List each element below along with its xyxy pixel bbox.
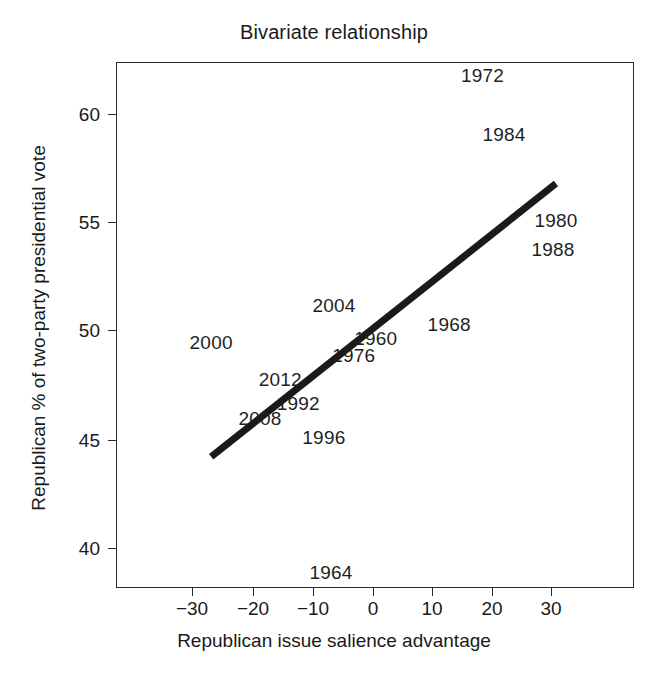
trend-line-layer — [117, 63, 634, 588]
y-tick-label: 40 — [79, 539, 100, 558]
x-tick-label: −30 — [176, 599, 208, 618]
x-tick-mark — [492, 588, 493, 596]
y-tick-mark — [108, 440, 116, 441]
x-tick-label: −20 — [237, 599, 269, 618]
x-tick-mark — [313, 588, 314, 596]
data-point-label-2000: 2000 — [190, 332, 233, 351]
data-point-label-1968: 1968 — [428, 315, 471, 334]
x-tick-label: 10 — [421, 599, 442, 618]
data-point-label-1972: 1972 — [461, 66, 504, 85]
data-point-label-1992: 1992 — [277, 393, 320, 412]
y-tick-label: 50 — [79, 321, 100, 340]
y-axis-label: Republican % of two-party presidential v… — [28, 65, 58, 591]
y-tick-label: 55 — [79, 213, 100, 232]
data-point-label-1980: 1980 — [534, 211, 577, 230]
data-point-label-2008: 2008 — [239, 408, 282, 427]
x-tick-label: 30 — [540, 599, 561, 618]
chart-figure: Bivariate relationship 19721984198019881… — [0, 0, 668, 691]
y-tick-mark — [108, 222, 116, 223]
y-tick-mark — [108, 330, 116, 331]
x-tick-mark — [192, 588, 193, 596]
x-tick-mark — [551, 588, 552, 596]
data-point-label-1976: 1976 — [332, 345, 375, 364]
y-tick-label: 45 — [79, 431, 100, 450]
x-tick-mark — [253, 588, 254, 596]
y-tick-mark — [108, 548, 116, 549]
data-point-label-2004: 2004 — [312, 295, 355, 314]
plot-panel: 1972198419801988196820041960197620002012… — [116, 62, 634, 588]
data-point-label-1964: 1964 — [310, 562, 353, 581]
chart-title: Bivariate relationship — [0, 21, 668, 44]
data-point-label-2012: 2012 — [259, 369, 302, 388]
x-tick-mark — [432, 588, 433, 596]
data-point-label-1988: 1988 — [531, 239, 574, 258]
data-point-label-1984: 1984 — [482, 124, 525, 143]
x-tick-label: 0 — [368, 599, 379, 618]
x-tick-label: −10 — [297, 599, 329, 618]
x-axis-label: Republican issue salience advantage — [0, 630, 668, 652]
data-point-label-1996: 1996 — [302, 428, 345, 447]
x-tick-mark — [373, 588, 374, 596]
x-tick-label: 20 — [481, 599, 502, 618]
y-tick-mark — [108, 114, 116, 115]
y-tick-label: 60 — [79, 105, 100, 124]
